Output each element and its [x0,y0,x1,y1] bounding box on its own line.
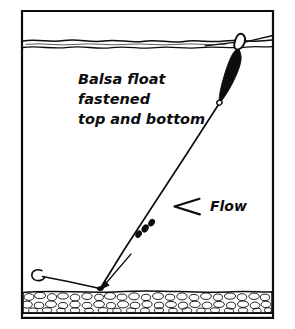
float-caption-line-3: top and bottom [78,111,205,127]
gravel-river-bed [22,291,272,318]
fishing-line [101,103,220,288]
flow-label: Flow [210,198,247,214]
main-line-path [101,103,220,288]
left-arrow-icon [175,199,200,215]
float-body [219,49,241,103]
fishing-hook [32,270,104,291]
balsa-float-rig-diagram: Balsa float fastened top and bottom Flow [0,0,295,329]
hook-bend [32,270,45,281]
bed-pointer-arrow [101,254,131,290]
flow-arrow-icon [175,199,200,215]
diagram-canvas: Balsa float fastened top and bottom Flow [0,0,295,329]
float-caption-line-1: Balsa float [78,71,166,87]
hook-shank [43,277,101,289]
hook-line-knot [97,286,104,291]
surface-wave-mid [26,44,226,45]
float-caption-line-2: fastened [78,91,151,107]
